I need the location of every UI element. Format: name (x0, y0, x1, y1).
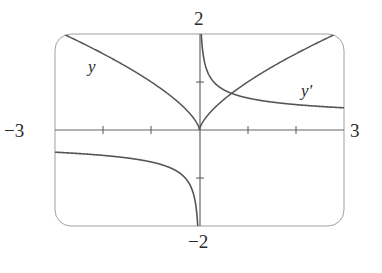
curve-yprime-right (200, 0, 344, 108)
y-min-label: −2 (188, 231, 208, 252)
chart: −3 3 2 −2 y y′ (0, 0, 382, 273)
curve-yprime-label: y′ (299, 81, 313, 100)
curve-y-label: y (86, 57, 96, 76)
y-max-label: 2 (194, 8, 204, 29)
curve-yprime-left (55, 152, 199, 273)
x-min-label: −3 (4, 120, 24, 141)
x-max-label: 3 (350, 120, 360, 141)
